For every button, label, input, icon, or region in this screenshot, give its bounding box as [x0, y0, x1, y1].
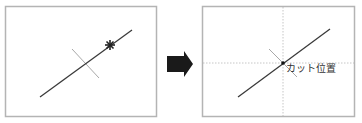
- star-marker-icon: [105, 40, 115, 50]
- cut-position-label: カット位置: [286, 62, 336, 74]
- diagram: カット位置: [0, 0, 362, 123]
- after-panel: カット位置: [203, 7, 355, 117]
- transition-arrow-icon: [167, 51, 193, 77]
- before-frame: [6, 7, 157, 117]
- after-frame: [203, 7, 355, 117]
- before-panel: [6, 7, 157, 117]
- cut-point: [281, 61, 285, 65]
